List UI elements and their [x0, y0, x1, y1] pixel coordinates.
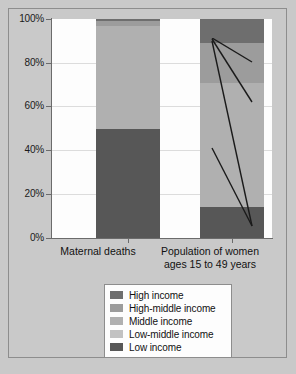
plot-area	[52, 19, 272, 238]
legend-swatch-low-middle-income	[110, 330, 123, 338]
legend-swatch-low-income	[110, 343, 123, 351]
ytick-label-40: 40%	[25, 144, 44, 155]
legend-swatch-high-income	[110, 291, 123, 299]
ytick-label-80: 80%	[25, 57, 44, 68]
legend-item-low-middle-income[interactable]: Low-middle income	[110, 328, 226, 340]
legend-item-high-middle-income[interactable]: High-middle income	[110, 302, 226, 314]
bar-segment-high-income[interactable]	[200, 19, 264, 43]
bar-population-of-women[interactable]	[200, 19, 264, 238]
legend-swatch-middle-income	[110, 317, 123, 325]
xtick-mark-maternal	[128, 238, 129, 243]
legend-label-high-income: High income	[129, 290, 183, 301]
ytick-label-100: 100%	[19, 13, 44, 24]
legend-label-low-income: Low income	[129, 342, 181, 353]
y-axis	[51, 18, 52, 239]
legend-item-low-income[interactable]: Low income	[110, 341, 226, 353]
legend-swatch-high-middle-income	[110, 304, 123, 312]
legend-label-high-middle-income: High-middle income	[129, 303, 216, 314]
xtick-label-population-of-women: Population of women ages 15 to 49 years	[140, 245, 280, 271]
bar-segment-middle-income[interactable]	[200, 83, 264, 207]
legend-item-middle-income[interactable]: Middle income	[110, 315, 226, 327]
bar-segment-low-income[interactable]	[200, 207, 264, 238]
bar-segment-middle-income[interactable]	[96, 26, 160, 129]
legend-label-middle-income: Middle income	[129, 316, 192, 327]
legend-label-low-middle-income: Low-middle income	[129, 329, 213, 340]
chart-figure: 100% 80% 60% 40% 20% 0%	[0, 0, 296, 374]
bar-maternal-deaths[interactable]	[96, 19, 160, 238]
x-axis	[51, 238, 273, 239]
xtick-mark-population	[232, 238, 233, 243]
bar-segment-high-middle-income[interactable]	[200, 43, 264, 83]
chart-legend: High income High-middle income Middle in…	[104, 284, 232, 358]
legend-item-high-income[interactable]: High income	[110, 289, 226, 301]
ytick-label-0: 0%	[30, 232, 44, 243]
bar-segment-low-income[interactable]	[96, 129, 160, 238]
ytick-label-20: 20%	[25, 188, 44, 199]
ytick-label-60: 60%	[25, 100, 44, 111]
